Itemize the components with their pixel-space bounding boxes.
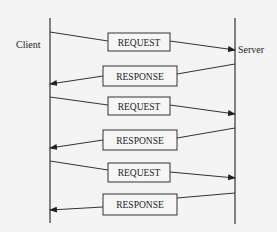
message-2-response: RESPONSE: [50, 64, 235, 86]
message-line-start: [50, 32, 108, 41]
message-arrow: [50, 76, 103, 84]
message-1-request: REQUEST: [50, 32, 235, 51]
message-3-request: REQUEST: [50, 97, 235, 115]
message-line-start: [50, 161, 108, 170]
message-6-response: RESPONSE: [50, 193, 235, 215]
message-arrow: [50, 207, 103, 210]
message-label: REQUEST: [118, 168, 161, 178]
message-5-request: REQUEST: [50, 161, 235, 182]
message-label: REQUEST: [118, 102, 161, 112]
message-line-start: [177, 193, 235, 198]
message-label: RESPONSE: [116, 200, 164, 210]
message-label: RESPONSE: [116, 136, 164, 146]
client-label: Client: [16, 39, 41, 50]
message-arrow: [170, 172, 235, 178]
sequence-diagram: Client Server REQUESTRESPONSEREQUESTRESP…: [0, 0, 277, 232]
message-arrow: [50, 140, 103, 148]
message-line-start: [50, 97, 108, 105]
message-label: RESPONSE: [116, 72, 164, 82]
message-line-start: [177, 128, 235, 138]
diagram-canvas: Client Server REQUESTRESPONSEREQUESTRESP…: [0, 0, 277, 232]
message-line-start: [177, 64, 235, 74]
message-4-response: RESPONSE: [50, 128, 235, 150]
message-arrow: [170, 105, 235, 114]
server-label: Server: [238, 44, 265, 55]
message-arrow: [170, 41, 235, 50]
message-label: REQUEST: [118, 38, 161, 48]
